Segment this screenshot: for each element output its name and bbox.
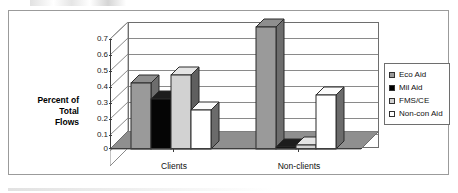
chart-screenshot: 0.7 0.6 0.5 0.4 0.3 0.2 0.1 0 Clients No… xyxy=(0,0,458,193)
tick-mark-0.6 xyxy=(109,55,112,56)
y-tick-0.6: 0.6 xyxy=(97,51,108,59)
gridline-0.4 xyxy=(129,70,378,71)
bar-clients-fms-ce xyxy=(171,67,191,149)
y-tick-0.5: 0.5 xyxy=(97,67,108,75)
y-axis-title-line-2: Flows xyxy=(17,117,79,128)
y-axis-title: Percent of Total Flows xyxy=(17,95,79,128)
y-tick-0.1: 0.1 xyxy=(97,131,108,139)
x-tick-non-clients xyxy=(298,149,299,152)
y-axis-title-line-1: Percent of Total xyxy=(17,95,79,117)
x-category-label-non-clients: Non-clients xyxy=(263,161,335,171)
tick-mark-0.5 xyxy=(109,71,112,72)
y-tick-0.2: 0.2 xyxy=(97,115,108,123)
legend-item-non-con-aid[interactable]: Non-con Aid xyxy=(389,107,446,120)
legend-swatch-icon-mil-aid xyxy=(389,85,395,91)
legend-item-eco-aid[interactable]: Eco Aid xyxy=(389,68,446,81)
legend-swatch-icon-fms-ce xyxy=(389,98,395,104)
legend-label-mil-aid: Mil Aid xyxy=(399,83,423,92)
bar-clients-eco-aid xyxy=(131,75,151,149)
gridline-0.6 xyxy=(129,38,378,39)
legend-item-fms-ce[interactable]: FMS/CE xyxy=(389,94,446,107)
scan-artifact-top xyxy=(30,0,160,6)
tick-mark-0.7 xyxy=(109,39,112,40)
legend-swatch-icon-eco-aid xyxy=(389,72,395,78)
scan-artifact-bottom xyxy=(8,188,450,191)
tick-mark-0.1 xyxy=(109,135,112,136)
legend-label-fms-ce: FMS/CE xyxy=(399,96,429,105)
y-tick-0.3: 0.3 xyxy=(97,99,108,107)
tick-mark-0.4 xyxy=(109,87,112,88)
bar-nonclients-non-con-aid xyxy=(316,87,336,149)
y-tick-0: 0 xyxy=(104,145,108,153)
legend-item-mil-aid[interactable]: Mil Aid xyxy=(389,81,446,94)
y-axis-ticks: 0.7 0.6 0.5 0.4 0.3 0.2 0.1 0 xyxy=(81,11,108,176)
tick-mark-0.3 xyxy=(109,103,112,104)
tick-mark-0 xyxy=(109,148,112,149)
legend-label-non-con-aid: Non-con Aid xyxy=(399,109,443,118)
bar-clients-non-con-aid xyxy=(191,102,211,149)
chart-frame: 0.7 0.6 0.5 0.4 0.3 0.2 0.1 0 Clients No… xyxy=(8,10,449,175)
legend-label-eco-aid: Eco Aid xyxy=(399,70,426,79)
y-tick-0.7: 0.7 xyxy=(97,35,108,43)
gridline-0.5 xyxy=(129,54,378,55)
x-tick-clients xyxy=(173,149,174,152)
bar-clients-mil-aid xyxy=(151,91,171,149)
y-tick-0.4: 0.4 xyxy=(97,83,108,91)
x-axis-line xyxy=(110,148,362,149)
x-category-label-clients: Clients xyxy=(143,161,205,171)
tick-mark-0.2 xyxy=(109,119,112,120)
legend-swatch-icon-non-con-aid xyxy=(389,111,395,117)
bar-nonclients-eco-aid xyxy=(256,19,276,149)
chart-legend: Eco Aid Mil Aid FMS/CE Non-con Aid xyxy=(384,63,450,125)
plot-area: 0.7 0.6 0.5 0.4 0.3 0.2 0.1 0 Clients No… xyxy=(9,11,450,176)
